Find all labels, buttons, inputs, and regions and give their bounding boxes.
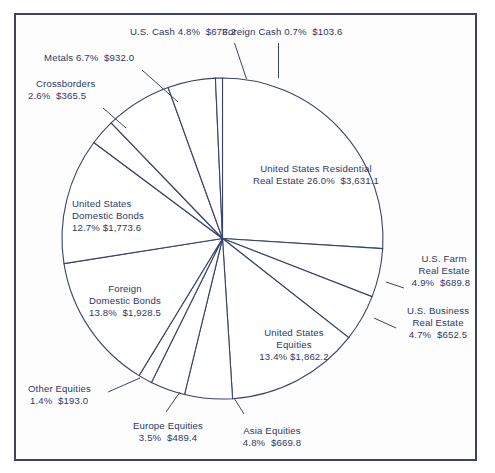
slice-label-foreign-cash: Foreign Cash 0.7% $103.6 [222,26,422,38]
leader-line-europe-equities [166,392,180,412]
leader-line-asia-equities [234,398,244,414]
leader-line-us-cash [235,43,247,79]
slice-label-metals: Metals 6.7% $932.0 [44,52,234,64]
pie-chart-figure: U.S. Cash 4.8% $673.2 Foreign Cash 0.7% … [0,0,495,473]
